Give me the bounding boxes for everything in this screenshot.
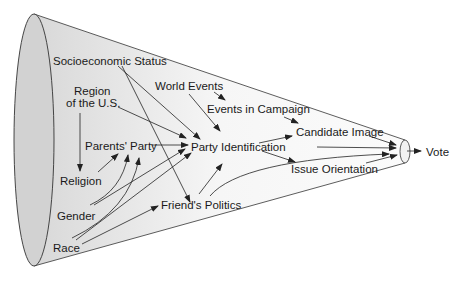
node-friends-politics: Friend's Politics (161, 199, 241, 211)
node-world-events: World Events (155, 80, 223, 92)
node-region-line1: Region (74, 85, 110, 97)
node-events-in-campaign: Events in Campaign (207, 103, 310, 115)
node-vote: Vote (426, 146, 449, 158)
funnel-end-ellipse (400, 140, 410, 163)
node-region-line2: of the U.S. (66, 97, 120, 109)
node-issue-orientation: Issue Orientation (291, 163, 378, 175)
node-socioeconomic-status: Socioeconomic Status (53, 55, 167, 67)
node-parents-party: Parents' Party (85, 140, 157, 152)
funnel-mouth-ellipse (14, 14, 54, 266)
node-party-identification: Party Identification (191, 141, 286, 153)
node-religion: Religion (60, 175, 102, 187)
node-race: Race (53, 242, 80, 254)
node-gender: Gender (57, 210, 95, 222)
node-candidate-image: Candidate Image (296, 126, 384, 138)
